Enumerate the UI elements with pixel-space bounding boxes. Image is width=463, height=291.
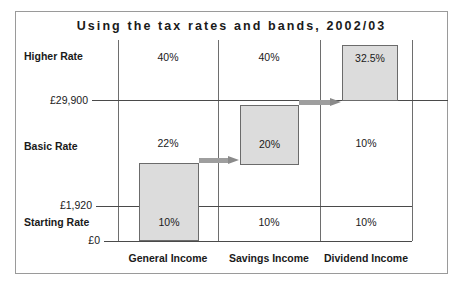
cell-general-higher: 40% bbox=[118, 51, 218, 63]
band-label-basic-rate: Basic Rate bbox=[24, 140, 78, 152]
arrow-savings-to-dividend bbox=[299, 98, 342, 107]
highlight-box-savings-basic-label: 20% bbox=[241, 138, 298, 150]
cell-savings-higher: 40% bbox=[218, 51, 320, 63]
column-header-general-income: General Income bbox=[118, 252, 218, 264]
highlight-box-dividend-higher-label: 32.5% bbox=[343, 52, 397, 64]
cell-dividend-starting: 10% bbox=[320, 216, 412, 228]
band-label-starting-rate: Starting Rate bbox=[24, 216, 89, 228]
axis-tick-29900: £29,900 bbox=[10, 94, 88, 106]
highlight-box-general-starting: 10% bbox=[139, 163, 199, 241]
band-label-higher-rate: Higher Rate bbox=[24, 50, 83, 62]
gridline-vertical-mid1 bbox=[218, 40, 219, 241]
cell-general-basic: 22% bbox=[118, 137, 218, 149]
column-header-dividend-income: Dividend Income bbox=[320, 252, 412, 264]
axis-tick-0: £0 bbox=[10, 234, 100, 246]
cell-dividend-basic: 10% bbox=[320, 137, 412, 149]
highlight-box-savings-basic: 20% bbox=[240, 105, 299, 165]
chart-container: Using the tax rates and bands, 2002/03 H… bbox=[0, 0, 463, 291]
chart-title: Using the tax rates and bands, 2002/03 bbox=[15, 19, 448, 33]
axis-tick-1920: £1,920 bbox=[10, 199, 92, 211]
highlight-box-dividend-higher: 32.5% bbox=[342, 45, 398, 101]
cell-savings-starting: 10% bbox=[218, 216, 320, 228]
arrow-general-to-savings bbox=[199, 156, 240, 165]
gridline-vertical-right bbox=[412, 40, 413, 241]
column-header-savings-income: Savings Income bbox=[218, 252, 320, 264]
highlight-box-general-starting-label: 10% bbox=[140, 216, 198, 228]
gridline-zero bbox=[104, 241, 412, 242]
